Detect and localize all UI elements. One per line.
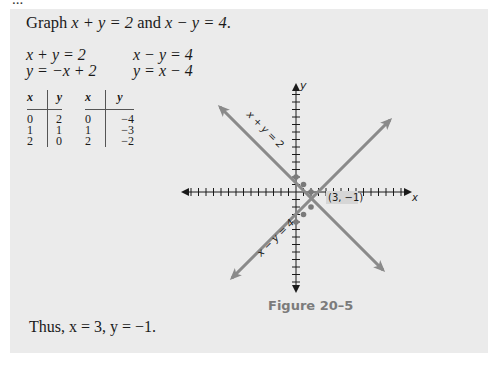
equation-1-slope-form: y = −x + 2 xyxy=(26,63,133,79)
table-header: x xyxy=(85,90,106,110)
values-table-1: xy 02 11 20 xyxy=(27,90,62,147)
intersection-label: (3, −1) xyxy=(328,192,363,203)
equation-2-standard: x − y = 4 xyxy=(133,47,193,63)
heading-period: . xyxy=(227,13,231,32)
line-1-label: x + y = 2 xyxy=(244,108,286,150)
y-axis-label: y xyxy=(299,79,307,92)
equation-row: x + y = 2 x − y = 4 xyxy=(26,47,193,63)
equation-row: y = −x + 2 y = x − 4 xyxy=(26,63,193,79)
table-cell: 2 xyxy=(27,136,48,147)
heading-equation-2: x − y = 4 xyxy=(165,13,227,32)
x-axis-label: x xyxy=(411,192,418,203)
example-heading: Graph x + y = 2 and x − y = 4. xyxy=(26,13,231,33)
table-cell: 0 xyxy=(48,136,63,147)
equation-1-standard: x + y = 2 xyxy=(26,47,133,63)
table-cell: −2 xyxy=(106,136,135,147)
equation-block: x + y = 2 x − y = 4 y = −x + 2 y = x − 4 xyxy=(26,47,193,79)
conclusion-text: Thus, x = 3, y = −1. xyxy=(29,318,156,336)
line-x-plus-y-equals-2-arrow xyxy=(220,107,383,270)
coordinate-graph: y x x + y = 2 x − y = 4 (3, −1) xyxy=(180,75,430,300)
figure-caption: Figure 20–5 xyxy=(268,298,353,313)
table-header: y xyxy=(48,90,63,110)
table-row: 2−2 xyxy=(85,136,134,147)
table-header: x xyxy=(27,90,48,110)
table-row: 20 xyxy=(27,136,62,147)
example-panel: Graph x + y = 2 and x − y = 4. x + y = 2… xyxy=(10,9,488,353)
values-table-2: xy 0−4 1−3 2−2 xyxy=(85,90,134,147)
heading-prefix: Graph xyxy=(26,13,71,32)
table-cell: 2 xyxy=(85,136,106,147)
line-2-label: x − y = 4 xyxy=(254,217,296,259)
heading-and: and xyxy=(133,13,165,32)
cut-off-text-line: ... xyxy=(12,0,23,8)
table-header: y xyxy=(106,90,135,110)
heading-equation-1: x + y = 2 xyxy=(71,13,133,32)
